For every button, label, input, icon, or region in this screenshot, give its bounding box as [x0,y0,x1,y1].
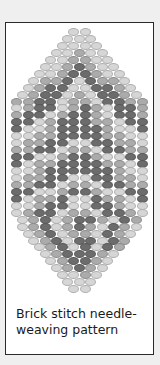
bead [68,285,79,293]
figure-caption: Brick stitch needle-weaving pattern [16,306,151,338]
bead [80,285,91,293]
bead [125,230,136,238]
bead-pattern [6,23,152,303]
figure-frame: Brick stitch needle-weaving pattern [5,22,154,355]
